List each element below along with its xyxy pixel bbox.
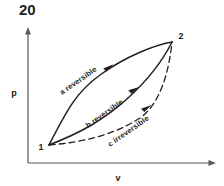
y-axis-label: p [11, 88, 17, 98]
state-1-label: 1 [38, 142, 43, 152]
process-b-label: b reversible [84, 97, 125, 129]
process-a-arrow-icon [103, 64, 113, 71]
pv-diagram: p v a reversible b reversible c irrevers… [0, 0, 224, 186]
state-2-label: 2 [178, 31, 183, 41]
y-axis-arrow-icon [25, 27, 31, 35]
process-c-group: c irreversible [49, 42, 172, 149]
process-a-group: a reversible [49, 42, 172, 145]
figure-container: 20 p v a reversible b reversible [0, 0, 224, 186]
x-axis-label: v [115, 173, 120, 183]
x-axis-arrow-icon [209, 160, 217, 166]
